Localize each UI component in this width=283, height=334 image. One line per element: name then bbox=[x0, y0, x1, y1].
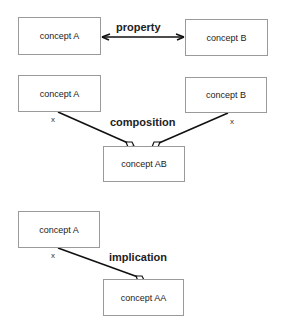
multiplicity-b: x bbox=[230, 117, 234, 126]
concept-label: concept B bbox=[206, 90, 246, 100]
composition-label: composition bbox=[110, 116, 175, 128]
concept-label: concept AB bbox=[121, 159, 167, 169]
concept-b-box-composition[interactable]: concept B bbox=[185, 77, 267, 113]
concept-label: concept A bbox=[39, 225, 79, 235]
concept-b-box-property[interactable]: concept B bbox=[185, 19, 268, 56]
concept-a-box-composition[interactable]: concept A bbox=[18, 75, 101, 112]
multiplicity-a: x bbox=[51, 251, 55, 260]
concept-a-box-property[interactable]: concept A bbox=[18, 17, 101, 55]
concept-a-box-implication[interactable]: concept A bbox=[18, 211, 100, 248]
concept-label: concept A bbox=[40, 31, 80, 41]
implication-label: implication bbox=[109, 251, 167, 263]
concept-label: concept B bbox=[206, 33, 246, 43]
property-label: property bbox=[116, 21, 161, 33]
concept-label: concept AA bbox=[121, 293, 167, 303]
property-arrow bbox=[102, 34, 184, 40]
concept-aa-box[interactable]: concept AA bbox=[103, 279, 184, 316]
multiplicity-a: x bbox=[51, 115, 55, 124]
concept-label: concept A bbox=[40, 89, 80, 99]
concept-ab-box[interactable]: concept AB bbox=[103, 146, 185, 182]
